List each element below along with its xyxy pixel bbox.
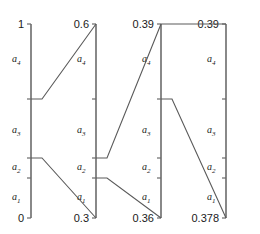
conn-2	[31, 158, 96, 218]
axis-4-region-sub-a3: 3	[211, 130, 216, 138]
axis-3-region-sub-a3: 3	[146, 130, 151, 138]
axis-2-region-label-a3: a3	[77, 124, 86, 138]
axis-4-region-sub-a2: 2	[212, 167, 216, 175]
axis-1-region-sub-a4: 4	[17, 59, 21, 67]
axis-1-region-label-a3: a3	[12, 124, 21, 138]
connectors-layer	[31, 24, 226, 218]
axis-4-region-label-a2: a2	[207, 161, 216, 175]
axis-4-bottom-value: 0.378	[191, 212, 219, 224]
axis-3-bottom-value: 0.36	[133, 212, 154, 224]
axis-3-region-sub-a4: 4	[147, 59, 151, 67]
axis-2-region-label-a4: a4	[77, 53, 86, 67]
axis-3-region-label-a2: a2	[142, 161, 151, 175]
axis-3-region-sub-a1: 1	[147, 197, 151, 205]
axis-1-bottom-value: 0	[18, 212, 24, 224]
conn-1	[31, 24, 96, 99]
axis-2: 0.60.3a4a3a2a1	[74, 18, 96, 224]
axis-2-bottom-value: 0.3	[74, 212, 89, 224]
axis-4-region-label-a3: a3	[207, 124, 216, 138]
axis-4: 0.390.378a4a3a2a1	[191, 18, 226, 224]
conn-6	[161, 99, 226, 218]
axis-2-region-sub-a2: 2	[82, 167, 86, 175]
axis-3-region-sub-a2: 2	[147, 167, 151, 175]
nomogram-figure: 10a4a3a2a10.60.3a4a3a2a10.390.36a4a3a2a1…	[0, 0, 260, 234]
axis-3: 0.390.36a4a3a2a1	[133, 18, 161, 224]
axis-2-region-label-a2: a2	[77, 161, 86, 175]
axis-1-region-sub-a3: 3	[16, 130, 21, 138]
axis-2-region-sub-a3: 3	[81, 130, 86, 138]
axis-1-region-sub-a2: 2	[17, 167, 21, 175]
axis-4-region-sub-a1: 1	[212, 197, 216, 205]
axis-1-region-label-a4: a4	[12, 53, 21, 67]
axis-1-top-value: 1	[18, 18, 24, 30]
axis-2-top-value: 0.6	[74, 18, 89, 30]
axis-1-region-sub-a1: 1	[17, 197, 21, 205]
axis-1-region-label-a2: a2	[12, 161, 21, 175]
nomogram-canvas: 10a4a3a2a10.60.3a4a3a2a10.390.36a4a3a2a1…	[0, 0, 260, 234]
axis-3-top-value: 0.39	[133, 18, 154, 30]
axis-3-region-label-a1: a1	[142, 191, 151, 205]
axis-4-region-sub-a4: 4	[212, 59, 216, 67]
axes-layer: 10a4a3a2a10.60.3a4a3a2a10.390.36a4a3a2a1…	[12, 18, 226, 224]
axis-1-region-label-a1: a1	[12, 191, 21, 205]
axis-4-region-label-a4: a4	[207, 53, 216, 67]
conn-3	[96, 24, 161, 158]
axis-2-region-sub-a4: 4	[82, 59, 86, 67]
axis-1: 10a4a3a2a1	[12, 18, 31, 224]
axis-3-region-label-a3: a3	[142, 124, 151, 138]
